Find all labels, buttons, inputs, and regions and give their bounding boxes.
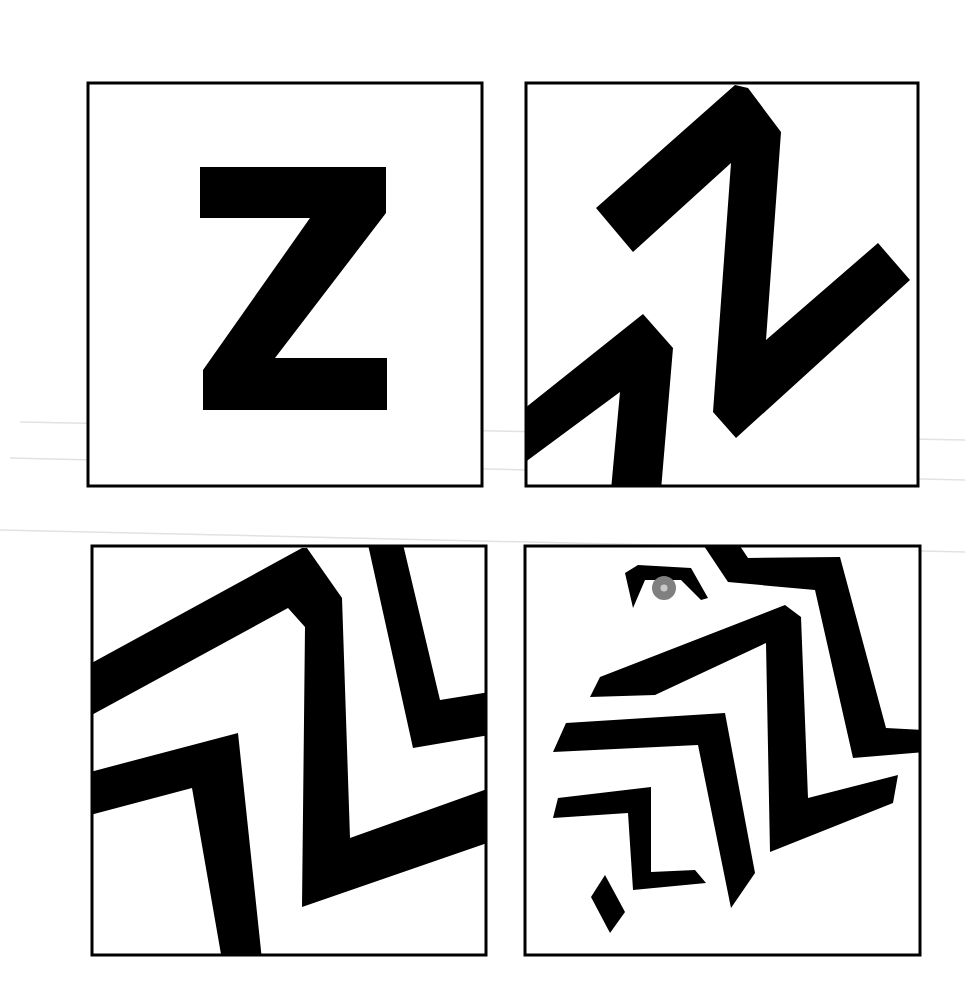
panel-3-bands [90,540,490,960]
figure-canvas: Four-panel sequence showing the letter Z… [0,0,965,1008]
panel-2-zigzag [520,83,918,490]
panel-1-letter-z [88,83,482,486]
eye-icon [652,576,676,600]
panel-4-bird [525,540,925,955]
